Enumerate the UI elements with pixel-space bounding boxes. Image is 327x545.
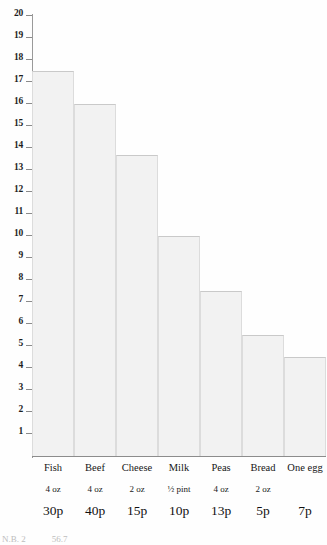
- category-quantity-label: ½ pint: [158, 478, 200, 500]
- category-name-label: One egg: [284, 458, 326, 478]
- category-name-label: Beef: [74, 458, 116, 478]
- y-axis-tick-label: 13: [14, 162, 23, 172]
- category-price-label: 7p: [284, 500, 326, 522]
- y-axis-tick-label: 15: [14, 118, 23, 128]
- category-column: Bread2 oz5p: [242, 458, 284, 522]
- y-axis-tick-label: 12: [14, 184, 23, 194]
- y-axis-tick-label: 14: [14, 140, 23, 150]
- category-quantity-label: 4 oz: [74, 478, 116, 500]
- y-axis-tick-label: 8: [18, 272, 23, 282]
- category-name-label: Peas: [200, 458, 242, 478]
- category-column: Beef4 oz40p: [74, 458, 116, 522]
- y-axis-tick-label: 7: [18, 294, 23, 304]
- category-column: Milk½ pint10p: [158, 458, 200, 522]
- plot-area: [32, 16, 326, 456]
- category-column: One egg 7p: [284, 458, 326, 522]
- category-column: Cheese2 oz15p: [116, 458, 158, 522]
- category-quantity-label: 2 oz: [242, 478, 284, 500]
- y-axis-tick-label: 19: [14, 30, 23, 40]
- category-column: Fish4 oz30p: [32, 458, 74, 522]
- category-price-label: 10p: [158, 500, 200, 522]
- category-name-label: Milk: [158, 458, 200, 478]
- bar: [32, 71, 74, 456]
- y-axis-tick-label: 16: [14, 96, 23, 106]
- footnote-left: N.B. 2: [2, 534, 26, 544]
- category-price-label: 30p: [32, 500, 74, 522]
- category-quantity-label: 4 oz: [32, 478, 74, 500]
- category-price-label: 5p: [242, 500, 284, 522]
- bar: [284, 357, 326, 456]
- bar: [200, 291, 242, 456]
- category-price-label: 15p: [116, 500, 158, 522]
- y-axis-tick-label: 18: [14, 52, 23, 62]
- y-axis-tick-label: 3: [18, 382, 23, 392]
- y-axis-tick-label: 20: [14, 8, 23, 18]
- category-quantity-label: 2 oz: [116, 478, 158, 500]
- y-axis-tick-label: 2: [18, 404, 23, 414]
- bar: [116, 155, 158, 456]
- y-axis-tick-label: 1: [18, 426, 23, 436]
- category-quantity-label: 4 oz: [200, 478, 242, 500]
- y-axis-tick-label: 11: [14, 206, 23, 216]
- y-axis-tick-label: 6: [18, 316, 23, 326]
- y-axis-tick-label: 4: [18, 360, 23, 370]
- bar-chart: 2019181716151413121110987654321 Fish4 oz…: [0, 0, 327, 545]
- footnote: N.B. 256.7: [2, 534, 202, 545]
- category-column: Peas4 oz13p: [200, 458, 242, 522]
- category-label-group: Fish4 oz30pBeef4 oz40pCheese2 oz15pMilk½…: [32, 458, 326, 538]
- footnote-right: 56.7: [52, 534, 68, 544]
- category-price-label: 13p: [200, 500, 242, 522]
- bar: [74, 104, 116, 456]
- bar: [242, 335, 284, 456]
- category-name-label: Fish: [32, 458, 74, 478]
- y-axis-tick-label: 10: [14, 228, 23, 238]
- y-axis-tick-label: 5: [18, 338, 23, 348]
- category-name-label: Bread: [242, 458, 284, 478]
- category-quantity-label: [284, 478, 326, 500]
- y-axis-tick-label: 17: [14, 74, 23, 84]
- category-price-label: 40p: [74, 500, 116, 522]
- bar: [158, 236, 200, 456]
- category-name-label: Cheese: [116, 458, 158, 478]
- y-axis-tick-label: 9: [18, 250, 23, 260]
- x-axis-baseline: [32, 456, 326, 457]
